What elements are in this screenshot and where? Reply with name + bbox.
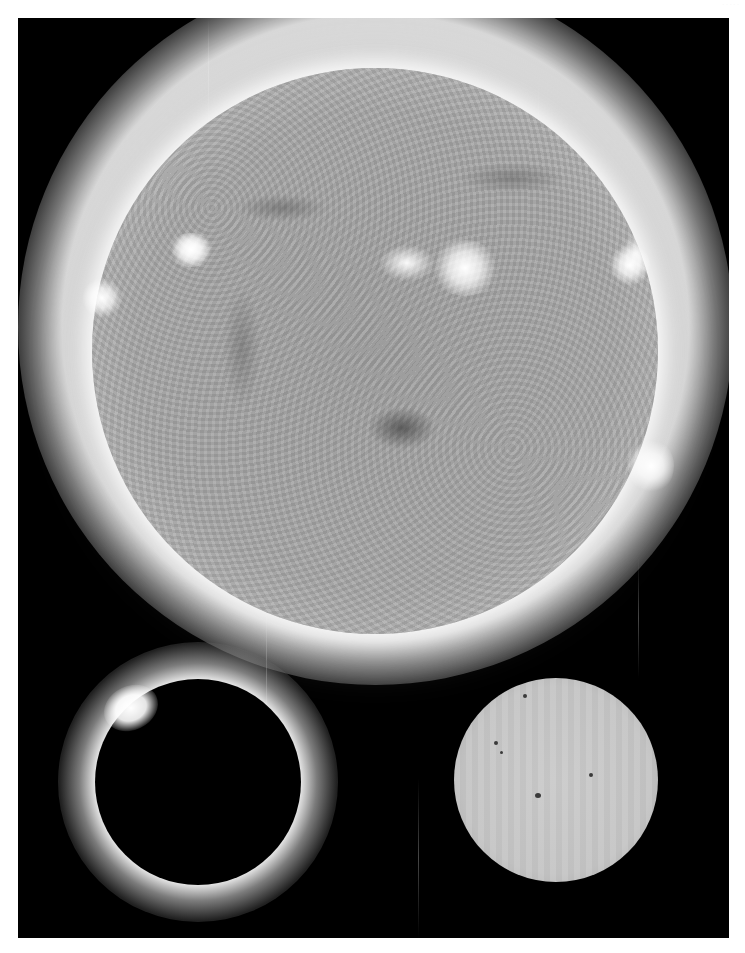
active-region-flare xyxy=(628,438,674,494)
streak-artifact xyxy=(638,558,639,678)
visible-sun-disc xyxy=(454,678,658,882)
sunspot xyxy=(500,751,503,754)
active-region-flare xyxy=(82,278,122,318)
euv-sun-disc xyxy=(92,68,658,634)
active-region-flare xyxy=(610,243,650,287)
sunspot xyxy=(535,793,541,798)
corner-label: · · · · · xyxy=(722,1,739,7)
black-panel xyxy=(18,18,729,938)
active-region-flare xyxy=(430,240,500,296)
sunspot xyxy=(589,773,593,777)
active-region-flare xyxy=(168,233,214,267)
sunspot xyxy=(494,741,498,745)
sunspot xyxy=(523,694,527,698)
streak-artifact xyxy=(418,778,419,938)
